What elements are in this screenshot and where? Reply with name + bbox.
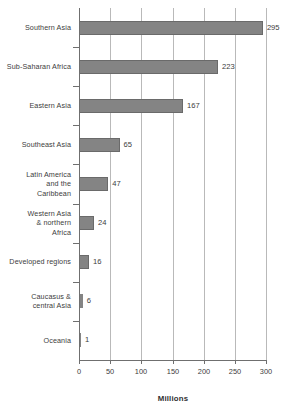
category-label-line: Caucasus & bbox=[0, 292, 71, 302]
bar bbox=[79, 21, 263, 35]
category-label-line: Western Asia bbox=[0, 209, 71, 219]
bar bbox=[79, 255, 89, 269]
x-axis-tick-label: 100 bbox=[126, 367, 156, 376]
y-axis-tick bbox=[73, 164, 79, 165]
bar bbox=[79, 177, 108, 191]
category-label-line: Caribbean bbox=[0, 189, 71, 199]
bar-value-label: 47 bbox=[112, 177, 120, 191]
y-axis-tick bbox=[73, 204, 79, 205]
category-label: Caucasus &central Asia bbox=[0, 292, 71, 311]
x-axis-title: Millions bbox=[79, 394, 267, 403]
x-axis-tick bbox=[79, 360, 80, 364]
category-label-line: Africa bbox=[0, 228, 71, 238]
y-axis-tick bbox=[73, 243, 79, 244]
x-axis-tick bbox=[173, 360, 174, 364]
bar-value-label: 24 bbox=[98, 216, 106, 230]
bar bbox=[79, 99, 183, 113]
bar-value-label: 167 bbox=[187, 99, 200, 113]
x-axis-tick bbox=[204, 360, 205, 364]
x-axis-tick-label: 0 bbox=[64, 367, 94, 376]
bar-value-label: 16 bbox=[93, 255, 101, 269]
category-label-line: Sub-Saharan Africa bbox=[0, 62, 71, 72]
x-axis-tick bbox=[266, 360, 267, 364]
plot-area: 2952231676547241661 bbox=[79, 8, 266, 360]
category-label-line: Developed regions bbox=[0, 257, 71, 267]
horizontal-bar-chart: Southern AsiaSub-Saharan AfricaEastern A… bbox=[0, 0, 286, 417]
category-label: Latin Americaand theCaribbean bbox=[0, 170, 71, 199]
x-axis-tick-label: 150 bbox=[158, 367, 188, 376]
category-label-line: Oceania bbox=[0, 336, 71, 346]
category-label: Eastern Asia bbox=[0, 101, 71, 111]
category-label-line: & northern bbox=[0, 218, 71, 228]
x-axis-tick bbox=[235, 360, 236, 364]
bar-value-label: 223 bbox=[222, 60, 235, 74]
category-label-line: central Asia bbox=[0, 301, 71, 311]
bar-value-label: 65 bbox=[124, 138, 132, 152]
category-label: Western Asia& northernAfrica bbox=[0, 209, 71, 238]
category-label-line: Latin America bbox=[0, 170, 71, 180]
gridline bbox=[266, 8, 267, 360]
x-axis-tick-label: 50 bbox=[95, 367, 125, 376]
category-label: Southeast Asia bbox=[0, 140, 71, 150]
y-axis-line bbox=[79, 8, 80, 360]
x-axis-tick bbox=[110, 360, 111, 364]
bar-value-label: 295 bbox=[267, 21, 280, 35]
bar-value-label: 1 bbox=[85, 333, 89, 347]
category-label-line: and the bbox=[0, 179, 71, 189]
category-label: Oceania bbox=[0, 336, 71, 346]
category-label-line: Eastern Asia bbox=[0, 101, 71, 111]
y-axis-tick bbox=[73, 282, 79, 283]
x-axis-tick-label: 300 bbox=[251, 367, 281, 376]
x-axis-tick-label: 250 bbox=[220, 367, 250, 376]
x-axis-tick-label: 200 bbox=[189, 367, 219, 376]
category-label: Southern Asia bbox=[0, 23, 71, 33]
bar bbox=[79, 138, 120, 152]
category-label-line: Southeast Asia bbox=[0, 140, 71, 150]
x-axis-tick bbox=[141, 360, 142, 364]
y-axis-tick bbox=[73, 86, 79, 87]
bar bbox=[79, 60, 218, 74]
bar-value-label: 6 bbox=[87, 294, 91, 308]
y-axis-tick bbox=[73, 125, 79, 126]
category-label: Sub-Saharan Africa bbox=[0, 62, 71, 72]
y-axis-tick bbox=[73, 47, 79, 48]
category-label: Developed regions bbox=[0, 257, 71, 267]
category-label-column: Southern AsiaSub-Saharan AfricaEastern A… bbox=[0, 8, 71, 360]
category-label-line: Southern Asia bbox=[0, 23, 71, 33]
gridline bbox=[235, 8, 236, 360]
y-axis-tick bbox=[73, 321, 79, 322]
bar bbox=[79, 216, 94, 230]
